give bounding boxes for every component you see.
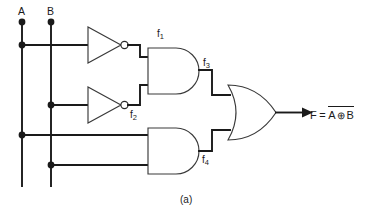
- and-gate-1-body: [148, 48, 199, 94]
- junction-b-and2: [48, 162, 55, 169]
- input-label-b: B: [47, 6, 54, 17]
- equals-sign: =: [319, 109, 325, 121]
- not-gate-2-body: [88, 87, 121, 123]
- not-gate-2-bubble: [121, 101, 128, 108]
- signal-label-f4: f4: [202, 155, 209, 165]
- not-gate-1-body: [88, 27, 121, 63]
- junction-a-and2: [19, 132, 26, 139]
- wire-f2-to-and1: [128, 85, 148, 105]
- logic-circuit-figure: A B f1 f2 f3 f4 F = A⊕B (a): [0, 0, 379, 219]
- wire-f3-to-or: [199, 70, 230, 95]
- junction-b-inverter2: [48, 102, 55, 109]
- signal-label-f2: f2: [130, 110, 137, 120]
- xor-operator-icon: ⊕: [336, 110, 347, 121]
- output-name: F: [310, 109, 317, 121]
- wire-f4-to-or: [199, 130, 230, 151]
- operand-right: B: [347, 109, 354, 121]
- input-terminal-a: [19, 19, 26, 26]
- output-expression: F = A⊕B: [310, 106, 354, 121]
- input-terminal-b: [48, 19, 55, 26]
- wire-f1-to-and1: [128, 45, 148, 57]
- not-gate-1-bubble: [121, 41, 128, 48]
- and-gate-2-body: [148, 128, 199, 174]
- or-gate-body: [228, 85, 276, 140]
- operand-left: A: [328, 109, 335, 121]
- signal-label-f3: f3: [203, 58, 210, 68]
- figure-caption: (a): [180, 195, 192, 205]
- input-label-a: A: [18, 6, 25, 17]
- signal-label-f1: f1: [157, 29, 164, 39]
- output-overbar-group: A⊕B: [328, 106, 354, 121]
- junction-a-inverter1: [19, 42, 26, 49]
